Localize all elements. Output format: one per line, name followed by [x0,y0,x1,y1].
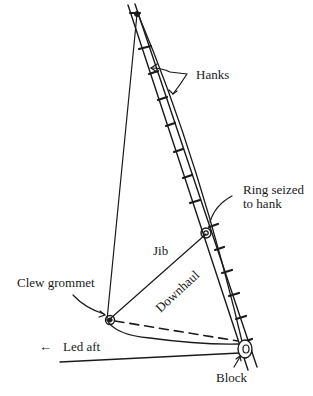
label-jib: Jib [153,244,168,258]
led-aft-line [60,353,240,362]
head-grommet-icon [135,12,140,17]
downhaul-dashed-lead [115,321,238,341]
ring-leader [210,196,232,222]
hanks [130,13,252,342]
forestay [128,4,257,370]
clew-leader [73,295,104,314]
sail-foot [107,320,240,344]
led-aft-arrow-icon: ← [39,340,52,354]
label-block: Block [216,371,247,385]
label-clew-grommet: Clew grommet [17,276,95,290]
sail-leech [107,14,137,320]
clew-arrowhead [99,311,105,317]
label-hanks: Hanks [196,68,229,82]
label-ring-line2: to hank [243,197,282,211]
label-led-aft: Led aft [63,340,100,354]
label-ring-line1: Ring seized [243,183,304,197]
